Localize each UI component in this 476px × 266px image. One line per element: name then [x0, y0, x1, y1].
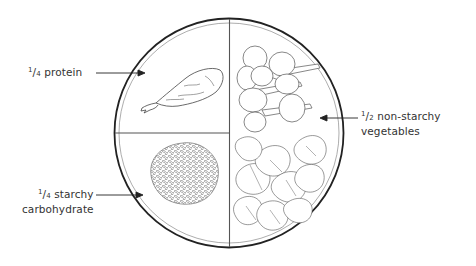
vegetables-label-line1: non-starchy	[377, 110, 440, 122]
starchy-label-line1: starchy	[54, 188, 93, 200]
spinach-icon	[234, 136, 327, 231]
vegetables-label-line2: vegetables	[361, 125, 441, 138]
vegetables-label: 1/2 non-starchy vegetables	[361, 108, 441, 138]
starchy-carbohydrate-label: 1/4 starchy carbohydrate	[22, 186, 94, 216]
protein-fraction: 1/4	[28, 66, 41, 78]
starchy-label-line2: carbohydrate	[22, 203, 94, 216]
starchy-fraction: 1/4	[38, 188, 51, 200]
rice-icon	[151, 143, 219, 205]
protein-label: 1/4 protein	[28, 64, 82, 81]
protein-label-text: protein	[44, 66, 82, 78]
vegetables-fraction: 1/2	[361, 110, 374, 122]
